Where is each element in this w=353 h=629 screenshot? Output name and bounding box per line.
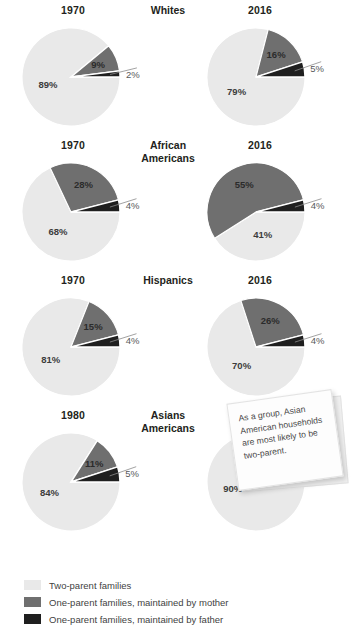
year-label-left: 1980	[38, 409, 108, 421]
pie-chart-2016: 41%55%4%	[200, 159, 318, 271]
year-label-right: 2016	[225, 274, 295, 286]
slice-value-label: 4%	[311, 335, 325, 346]
slice-value-label: 81%	[41, 354, 61, 365]
pie-chart-1970: 68%28%4%	[15, 159, 133, 271]
legend-swatch	[24, 580, 41, 590]
year-label-right: 2016	[225, 4, 295, 16]
legend-label: Two-parent families	[49, 580, 131, 591]
legend-swatch	[24, 597, 41, 607]
slice-value-label: 84%	[40, 487, 60, 498]
slice-value-label: 89%	[38, 79, 58, 90]
slice-value-label: 15%	[84, 321, 104, 332]
callout-note-text: As a group, Asian American households ar…	[238, 400, 332, 462]
pie-chart-1970: 89%9%2%	[15, 24, 133, 136]
group-name-label-line2: Americans	[141, 152, 195, 164]
year-label-right: 2016	[225, 139, 295, 151]
legend-swatch	[24, 614, 41, 624]
chart-row-african-americans: 1970AfricanAmericans201668%28%4%41%55%4%	[0, 135, 353, 270]
callout-note: As a group, Asian American households ar…	[226, 389, 343, 491]
year-label-left: 1970	[38, 139, 108, 151]
slice-value-label: 5%	[125, 468, 139, 479]
slice-value-label: 26%	[261, 315, 281, 326]
legend-label: One-parent families, maintained by fathe…	[49, 614, 223, 625]
group-name-label: Whites	[118, 4, 218, 17]
slice-value-label: 4%	[126, 335, 140, 346]
slice-value-label: 16%	[267, 49, 287, 60]
legend-item: One-parent families, maintained by fathe…	[24, 612, 229, 626]
slice-value-label: 5%	[310, 63, 324, 74]
slice-value-label: 41%	[253, 229, 273, 240]
legend-item: Two-parent families	[24, 578, 229, 592]
chart-row-whites: 1970Whites201689%9%2%79%16%5%	[0, 0, 353, 135]
legend-label: One-parent families, maintained by mothe…	[49, 597, 229, 608]
slice-value-label: 9%	[91, 59, 105, 70]
year-label-left: 1970	[38, 4, 108, 16]
pie-chart-2016: 70%26%4%	[200, 294, 318, 406]
year-label-left: 1970	[38, 274, 108, 286]
group-name-label: Hispanics	[118, 274, 218, 287]
chart-row-hispanics: 1970Hispanics201681%15%4%70%26%4%	[0, 270, 353, 405]
slice-value-label: 11%	[85, 458, 104, 469]
slice-value-label: 79%	[227, 86, 247, 97]
legend-item: One-parent families, maintained by mothe…	[24, 595, 229, 609]
chart-legend: Two-parent familiesOne-parent families, …	[24, 578, 229, 629]
slice-value-label: 68%	[48, 226, 68, 237]
pie-chart-2016: 79%16%5%	[200, 24, 318, 136]
slice-value-label: 4%	[311, 200, 325, 211]
pie-chart-1970: 81%15%4%	[15, 294, 133, 406]
slice-value-label: 4%	[126, 200, 140, 211]
pie-chart-1980: 84%11%5%	[15, 429, 133, 541]
slice-value-label: 55%	[235, 179, 255, 190]
slice-value-label: 70%	[232, 360, 252, 371]
group-name-label-line2: Americans	[141, 422, 195, 434]
slice-value-label: 28%	[74, 179, 94, 190]
slice-value-label: 2%	[126, 69, 140, 80]
